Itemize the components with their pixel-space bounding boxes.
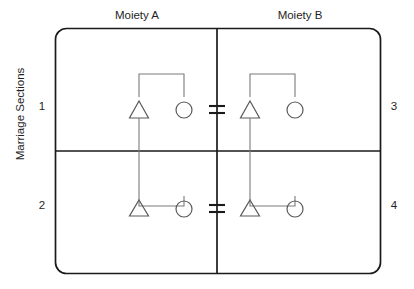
female-circle-icon: [287, 102, 303, 118]
diagram-canvas: [0, 0, 414, 289]
couple-group-section-3: [241, 74, 304, 186]
kinship-diagram-figure: Moiety A Moiety B Marriage Sections 1 2 …: [0, 0, 414, 289]
sibling-bracket-icon: [250, 74, 295, 97]
female-circle-icon: [176, 102, 192, 118]
couple-group-section-1: [130, 74, 193, 186]
couple-group-section-2: [130, 186, 193, 217]
male-triangle-icon: [241, 101, 260, 118]
couple-group-section-4: [241, 186, 304, 217]
sibling-bracket-icon: [139, 74, 184, 97]
sibling-bracket-icon: [139, 186, 184, 206]
sibling-bracket-icon: [250, 186, 295, 206]
male-triangle-icon: [130, 101, 149, 118]
